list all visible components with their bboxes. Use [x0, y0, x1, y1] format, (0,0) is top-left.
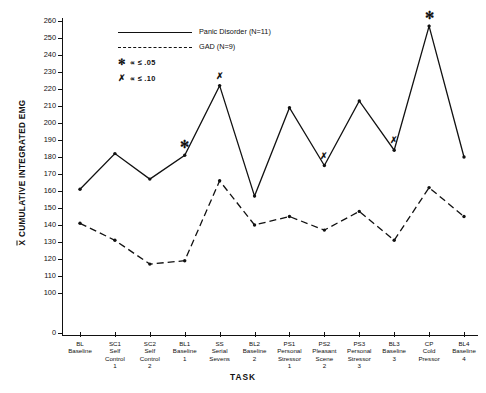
data-point	[462, 155, 465, 158]
cross-icon: ✗	[118, 73, 130, 83]
significance-text-05: ∝ ≤ .05	[130, 58, 156, 67]
data-point	[288, 106, 291, 109]
y-tick-label: 170	[44, 170, 56, 177]
data-point	[78, 222, 81, 225]
chart-figure: X CUMULATIVE INTEGRATED EMG 100110120130…	[0, 0, 486, 393]
asterisk-icon: ✻	[118, 57, 130, 67]
y-axis-title-text: CUMULATIVE INTEGRATED EMG	[18, 99, 27, 239]
legend-item-gad: GAD (N=9)	[118, 39, 271, 54]
data-point	[113, 152, 116, 155]
data-point	[183, 259, 186, 262]
data-point	[427, 24, 430, 27]
data-point	[462, 215, 465, 218]
data-point	[358, 99, 361, 102]
y-axis-title-xbar: X	[18, 240, 27, 246]
y-tick-label: 250	[44, 34, 56, 41]
legend-swatch-solid	[118, 27, 192, 37]
data-point	[392, 239, 395, 242]
data-point	[323, 228, 326, 231]
y-tick-label: 130	[44, 238, 56, 245]
data-point	[253, 194, 256, 197]
y-tick-label: 110	[44, 272, 56, 279]
y-tick-label: 220	[44, 85, 56, 92]
y-tick-label: 120	[44, 255, 56, 262]
y-tick-label: 230	[44, 68, 56, 75]
y-tick-label: 160	[44, 187, 56, 194]
data-point	[148, 262, 151, 265]
y-tick-label: 140	[44, 221, 56, 228]
cross-icon: ✗	[320, 151, 328, 161]
x-axis-title: TASK	[0, 372, 486, 382]
significance-note-05: ✻ ∝ ≤ .05	[118, 54, 271, 70]
data-point	[358, 210, 361, 213]
legend-swatch-dashed	[118, 42, 192, 52]
x-tick-label: BL4 Baseline 4	[438, 340, 486, 362]
series-line	[80, 181, 464, 264]
data-point	[253, 223, 256, 226]
significance-note-10: ✗ ∝ ≤ .10	[118, 70, 271, 86]
legend: Panic Disorder (N=11) GAD (N=9) ✻ ∝ ≤ .0…	[118, 24, 271, 86]
y-axis-title: X CUMULATIVE INTEGRATED EMG	[18, 73, 27, 273]
asterisk-icon: ✻	[425, 9, 434, 21]
y-tick-label: 200	[44, 119, 56, 126]
legend-item-panic: Panic Disorder (N=11)	[118, 24, 271, 39]
legend-label-gad: GAD (N=9)	[199, 42, 235, 51]
y-tick-label: 180	[44, 153, 56, 160]
y-tick-label: 100	[44, 289, 56, 296]
y-tick-label: 190	[44, 136, 56, 143]
legend-label-panic: Panic Disorder (N=11)	[199, 27, 271, 36]
y-tick-label: 260	[44, 17, 56, 24]
data-point	[78, 188, 81, 191]
data-point	[113, 239, 116, 242]
data-point	[218, 179, 221, 182]
data-point	[427, 186, 430, 189]
asterisk-icon: ✻	[180, 138, 189, 150]
data-point	[323, 164, 326, 167]
data-point	[392, 149, 395, 152]
y-tick-label: 210	[44, 102, 56, 109]
cross-icon: ✗	[390, 135, 398, 145]
y-tick-label: 240	[44, 51, 56, 58]
significance-text-10: ∝ ≤ .10	[130, 74, 156, 83]
y-tick-label-zero: 0	[52, 329, 56, 336]
data-point	[148, 177, 151, 180]
data-point	[288, 215, 291, 218]
data-point	[183, 154, 186, 157]
y-tick-label: 150	[44, 204, 56, 211]
